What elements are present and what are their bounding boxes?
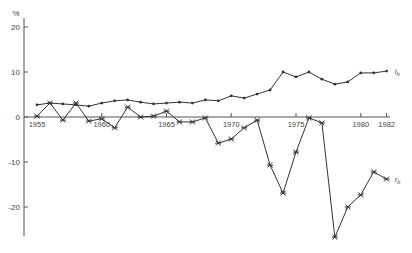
series-group: [34, 70, 390, 240]
data-point-dot: [191, 102, 194, 105]
y-axis-unit-label: %: [12, 9, 19, 18]
y-tick-label: -10: [8, 158, 20, 167]
data-point-dot: [321, 78, 324, 81]
x-tick-label: 1975: [288, 120, 305, 129]
data-point-dot: [139, 101, 142, 104]
data-point-dot: [295, 76, 298, 79]
data-point-star: [215, 141, 221, 146]
series-label-i_b: ib: [395, 67, 400, 77]
chart-canvas: %20100-10-201955196019651970197519801982…: [0, 0, 412, 253]
x-tick-label: 1955: [29, 120, 46, 129]
data-point-star: [125, 105, 131, 110]
y-tick-label: 0: [16, 113, 21, 122]
data-point-dot: [36, 103, 39, 106]
data-point-star: [306, 115, 312, 120]
x-tick-label: 1960: [93, 120, 110, 129]
data-point-dot: [346, 81, 349, 84]
data-point-star: [228, 137, 234, 142]
data-point-star: [151, 114, 157, 119]
data-point-star: [371, 169, 377, 174]
data-point-dot: [359, 72, 362, 75]
data-point-star: [164, 109, 170, 114]
data-point-star: [60, 118, 66, 123]
data-point-dot: [256, 93, 259, 96]
data-point-star: [176, 119, 182, 124]
data-point-star: [47, 101, 53, 106]
data-point-star: [280, 191, 286, 196]
data-point-dot: [372, 72, 375, 75]
data-point-star: [112, 125, 118, 130]
data-point-dot: [230, 94, 233, 97]
line-chart: %20100-10-201955196019651970197519801982…: [0, 0, 412, 253]
data-point-dot: [100, 102, 103, 105]
series-line-r_b: [37, 103, 387, 237]
data-point-dot: [87, 105, 90, 108]
data-point-dot: [269, 89, 272, 92]
data-point-dot: [217, 99, 220, 102]
data-point-dot: [333, 83, 336, 86]
data-point-dot: [126, 99, 129, 102]
data-point-dot: [308, 71, 311, 74]
data-point-star: [138, 115, 144, 120]
series-label-r_b: rb: [395, 175, 401, 185]
series-line-i_b: [37, 71, 387, 106]
data-point-star: [202, 115, 208, 120]
data-point-star: [86, 119, 92, 124]
y-tick-label: -20: [8, 203, 20, 212]
series-labels: ibrb: [395, 67, 401, 185]
data-point-dot: [165, 102, 168, 105]
x-tick-label: 1970: [223, 120, 240, 129]
y-tick-label: 20: [11, 23, 20, 32]
data-point-dot: [113, 99, 116, 102]
data-point-star: [384, 177, 390, 182]
data-point-dot: [385, 70, 388, 73]
series-label-sub: b: [397, 179, 400, 185]
data-point-dot: [152, 103, 155, 106]
data-point-star: [34, 114, 40, 119]
data-point-star: [241, 125, 247, 130]
data-point-dot: [178, 101, 181, 104]
axes: %20100-10-201955196019651970197519801982: [8, 9, 395, 236]
x-tick-label: 1982: [378, 120, 395, 129]
x-tick-label: 1965: [158, 120, 175, 129]
data-point-dot: [204, 99, 207, 102]
data-point-star: [189, 119, 195, 124]
data-point-dot: [282, 71, 285, 74]
series-label-sub: b: [396, 71, 399, 77]
data-point-dot: [62, 103, 65, 106]
data-point-star: [358, 192, 364, 197]
data-point-star: [293, 150, 299, 155]
y-tick-label: 10: [11, 68, 20, 77]
data-point-star: [345, 205, 351, 210]
x-tick-label: 1980: [352, 120, 369, 129]
data-point-dot: [243, 97, 246, 100]
